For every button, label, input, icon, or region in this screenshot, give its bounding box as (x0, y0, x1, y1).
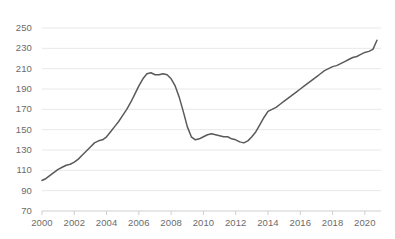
y-axis-tick-label: 210 (4, 63, 32, 74)
x-axis-tick-label: 2004 (90, 217, 124, 228)
chart-plot-area (0, 0, 395, 239)
x-axis-tick-label: 2006 (122, 217, 156, 228)
x-axis-tick-label: 2020 (348, 217, 382, 228)
y-axis-tick-label: 110 (4, 164, 32, 175)
x-axis-tick-label: 2014 (251, 217, 285, 228)
x-axis-tick-label: 2002 (57, 217, 91, 228)
gridlines-group (42, 28, 381, 191)
y-axis-tick-label: 250 (4, 22, 32, 33)
line-chart: 7090110130150170190210230250 20002002200… (0, 0, 395, 239)
series-line-index (42, 40, 377, 180)
x-axis-tick-label: 2008 (154, 217, 188, 228)
x-axis-tick-label: 2018 (316, 217, 350, 228)
x-axis-tick-label: 2012 (219, 217, 253, 228)
y-axis-tick-label: 170 (4, 103, 32, 114)
y-axis-tick-label: 150 (4, 124, 32, 135)
x-axis-tick-label: 2010 (186, 217, 220, 228)
y-axis-tick-label: 230 (4, 42, 32, 53)
y-axis-tick-label: 130 (4, 144, 32, 155)
y-axis-tick-label: 90 (4, 185, 32, 196)
y-axis-tick-label: 70 (4, 205, 32, 216)
x-axis-tick-label: 2000 (25, 217, 59, 228)
y-axis-tick-label: 190 (4, 83, 32, 94)
x-axis-tick-label: 2016 (283, 217, 317, 228)
x-axis-ticks (42, 211, 365, 215)
